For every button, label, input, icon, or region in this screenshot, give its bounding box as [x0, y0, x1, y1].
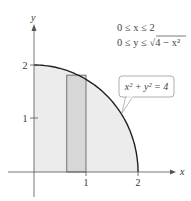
condition-x: 0 ≤ x ≤ 2: [117, 22, 155, 33]
condition-y: 0 ≤ y ≤ √4 − x²: [117, 37, 180, 48]
callout-pointer: [122, 95, 134, 113]
representative-rectangle: [67, 75, 86, 172]
region-diagram: 1 2 1 2 x y x² + y² = 4 0 ≤ x ≤ 2 0 ≤ y …: [0, 0, 191, 201]
tick-label-x-2: 2: [136, 177, 141, 188]
x-axis-arrow-icon: [170, 170, 176, 175]
y-axis-label: y: [30, 12, 36, 23]
tick-label-x-1: 1: [84, 177, 89, 188]
x-axis-label: x: [179, 166, 185, 177]
tick-label-y-2: 2: [23, 60, 28, 71]
callout-label: x² + y² = 4: [124, 81, 168, 92]
tick-label-y-1: 1: [23, 113, 28, 124]
y-axis-arrow-icon: [32, 24, 37, 31]
